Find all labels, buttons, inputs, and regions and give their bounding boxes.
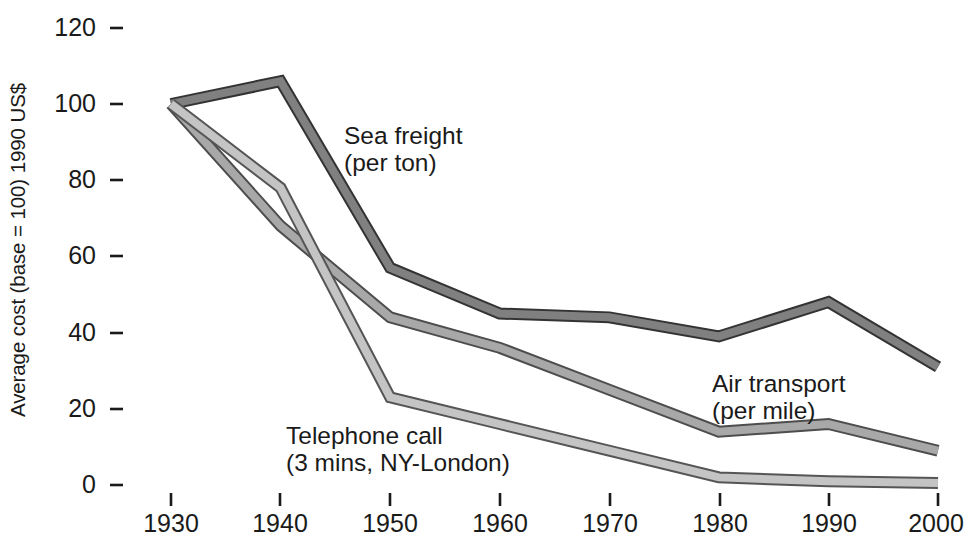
x-tick-label-1990: 1990 [779, 511, 879, 536]
y-tick-label-60: 60 [22, 243, 96, 268]
annotation-sea-freight: Sea freight (per ton) [344, 122, 463, 177]
y-tick-label-40: 40 [22, 320, 96, 345]
annotation-air-transport-line2: (per mile) [712, 397, 845, 424]
annotation-telephone-call-line2: (3 mins, NY-London) [286, 449, 510, 476]
annotation-sea-freight-line1: Sea freight [344, 122, 463, 149]
x-tick-label-1980: 1980 [670, 511, 770, 536]
chart-container: Average cost (base = 100) 1990 US$ 120 1… [0, 0, 979, 553]
y-axis-ticks [110, 28, 123, 485]
annotation-air-transport-line1: Air transport [712, 370, 845, 397]
annotation-telephone-call-line1: Telephone call [286, 422, 510, 449]
x-axis-ticks [171, 493, 938, 506]
y-tick-label-120: 120 [22, 15, 96, 40]
x-tick-label-1930: 1930 [121, 511, 221, 536]
annotation-telephone-call: Telephone call (3 mins, NY-London) [286, 422, 510, 477]
x-tick-label-1970: 1970 [560, 511, 660, 536]
x-tick-label-2000: 2000 [886, 511, 979, 536]
x-tick-label-1940: 1940 [230, 511, 330, 536]
annotation-air-transport: Air transport (per mile) [712, 370, 845, 425]
y-tick-label-100: 100 [22, 91, 96, 116]
y-tick-label-80: 80 [22, 167, 96, 192]
x-tick-label-1960: 1960 [450, 511, 550, 536]
x-tick-label-1950: 1950 [340, 511, 440, 536]
y-tick-label-20: 20 [22, 396, 96, 421]
y-tick-label-0: 0 [22, 472, 96, 497]
annotation-sea-freight-line2: (per ton) [344, 149, 463, 176]
